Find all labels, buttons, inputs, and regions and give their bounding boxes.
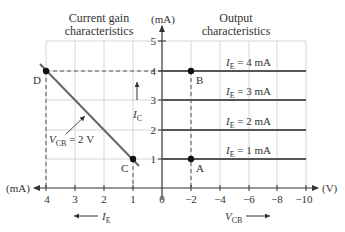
- right-title-line2: characteristics: [202, 24, 271, 38]
- point-a: [188, 156, 194, 162]
- y-tick-2: 2: [151, 124, 157, 136]
- x-right-tick-8: −8: [271, 193, 283, 205]
- y-tick-4: 4: [151, 65, 157, 77]
- y-tick-3: 3: [151, 94, 157, 106]
- x-right-unit-label: (V): [322, 182, 338, 195]
- x-right-tick-4: −4: [214, 193, 226, 205]
- label-point-b: B: [196, 74, 203, 86]
- point-d: [43, 68, 49, 74]
- x-left-tick-4: 4: [44, 193, 50, 205]
- label-point-c: C: [121, 162, 128, 174]
- vcb-annotation-arrow: [66, 116, 85, 134]
- current-gain-curve: [40, 64, 139, 166]
- x-left-unit-label: (mA): [6, 182, 30, 195]
- x-right-tick-6: −6: [243, 193, 255, 205]
- operating-points: [43, 68, 194, 162]
- label-point-d: D: [33, 74, 41, 86]
- label-ie-2ma: IE = 2 mA: [225, 115, 271, 130]
- x-left-tick-1: 1: [130, 193, 136, 205]
- label-ie-4ma: IE = 4 mA: [225, 56, 271, 71]
- label-ie-1ma: IE = 1 mA: [225, 144, 271, 159]
- transistor-characteristics-diagram: Current gain characteristics Output char…: [0, 0, 345, 232]
- x-left-tick-3: 3: [72, 193, 78, 205]
- x-right-tick-10: −10: [295, 193, 313, 205]
- label-vcb-2v: VCB = 2 V: [49, 133, 94, 148]
- point-b: [188, 68, 194, 74]
- y-unit-label: (mA): [151, 13, 175, 26]
- label-point-a: A: [196, 162, 204, 174]
- label-vcb-axis: VCB: [225, 210, 242, 225]
- axes: [34, 26, 318, 200]
- y-tick-1: 1: [151, 153, 157, 165]
- point-c: [130, 156, 136, 162]
- label-ie-axis: IE: [101, 210, 111, 225]
- x-right-tick-2: −2: [185, 193, 197, 205]
- y-tick-5: 5: [151, 35, 157, 47]
- label-ie-3ma: IE = 3 mA: [225, 85, 271, 100]
- right-title-line1: Output: [219, 11, 253, 25]
- x-zero-tick: 0: [159, 193, 165, 205]
- left-title-line2: characteristics: [65, 24, 134, 38]
- left-title-line1: Current gain: [69, 11, 129, 25]
- x-left-tick-2: 2: [101, 193, 107, 205]
- label-ic: IC: [132, 108, 142, 123]
